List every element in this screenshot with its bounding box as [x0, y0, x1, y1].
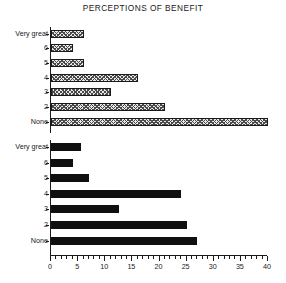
bar-lower-panel-5: [51, 174, 89, 182]
x-axis-minor-tick: [164, 256, 165, 259]
category-tick: [46, 209, 49, 210]
x-axis-minor-tick: [115, 256, 116, 259]
x-axis-minor-tick: [93, 256, 94, 259]
x-axis-minor-tick: [126, 256, 127, 259]
x-axis-tick-label: 15: [127, 262, 135, 271]
bar-row: [51, 205, 268, 213]
x-axis-major-tick: [104, 256, 105, 261]
x-axis-minor-tick: [224, 256, 225, 259]
x-axis-minor-tick: [153, 256, 154, 259]
category-tick: [46, 78, 49, 79]
category-tick: [46, 147, 49, 148]
category-tick: [46, 34, 49, 35]
x-axis-tick-label: 25: [182, 262, 190, 271]
x-axis-minor-tick: [72, 256, 73, 259]
x-axis-minor-tick: [169, 256, 170, 259]
x-axis-minor-tick: [251, 256, 252, 259]
x-axis-minor-tick: [175, 256, 176, 259]
category-tick: [46, 107, 49, 108]
x-axis-tick-label: 5: [75, 262, 79, 271]
x-axis-tick-label: 30: [209, 262, 217, 271]
category-tick: [46, 178, 49, 179]
category-tick: [46, 122, 49, 123]
x-axis-minor-tick: [148, 256, 149, 259]
upper-panel-category-axis: Very great65432None: [0, 27, 48, 133]
bar-row: [51, 59, 268, 67]
bar-row: [51, 221, 268, 229]
category-tick: [46, 241, 49, 242]
bar-row: [51, 143, 268, 151]
x-axis-tick-label: 20: [155, 262, 163, 271]
chart-title: PERCEPTIONS OF BENEFIT: [0, 3, 286, 13]
x-axis-major-tick: [213, 256, 214, 261]
bar-row: [51, 190, 268, 198]
bar-upper-panel-4: [51, 74, 138, 82]
bar-row: [51, 159, 268, 167]
bar-upper-panel-very-great: [51, 30, 84, 38]
lower-panel-plot-area: [50, 140, 272, 255]
x-axis-minor-tick: [88, 256, 89, 259]
x-axis-major-tick: [77, 256, 78, 261]
bar-row: [51, 174, 268, 182]
bar-upper-panel-6: [51, 44, 73, 52]
x-axis-major-tick: [159, 256, 160, 261]
bar-lower-panel-2: [51, 221, 187, 229]
bar-lower-panel-6: [51, 159, 73, 167]
x-axis-minor-tick: [180, 256, 181, 259]
bar-upper-panel-2: [51, 103, 165, 111]
x-axis-minor-tick: [191, 256, 192, 259]
x-axis-minor-tick: [142, 256, 143, 259]
x-axis-minor-tick: [99, 256, 100, 259]
x-axis-minor-tick: [234, 256, 235, 259]
x-axis-minor-tick: [66, 256, 67, 259]
x-axis-minor-tick: [83, 256, 84, 259]
x-axis-minor-tick: [121, 256, 122, 259]
category-tick: [46, 92, 49, 93]
x-axis-minor-tick: [55, 256, 56, 259]
x-axis-minor-tick: [137, 256, 138, 259]
bar-row: [51, 74, 268, 82]
bar-lower-panel-very-great: [51, 143, 81, 151]
x-axis-minor-tick: [110, 256, 111, 259]
category-tick: [46, 48, 49, 49]
chart-figure: PERCEPTIONS OF BENEFIT Very great65432No…: [0, 0, 286, 283]
category-tick: [46, 194, 49, 195]
x-axis-minor-tick: [229, 256, 230, 259]
category-label: Very great: [15, 30, 48, 38]
x-axis-major-tick: [240, 256, 241, 261]
category-tick: [46, 163, 49, 164]
lower-panel-category-axis: Very great65432None: [0, 140, 48, 255]
x-axis-tick-label: 40: [263, 262, 271, 271]
bar-row: [51, 30, 268, 38]
x-axis-tick-label: 0: [48, 262, 52, 271]
category-label: Very great: [15, 143, 48, 151]
bar-row: [51, 103, 268, 111]
x-axis-minor-tick: [61, 256, 62, 259]
bar-row: [51, 44, 268, 52]
bar-lower-panel-3: [51, 205, 119, 213]
x-axis-major-tick: [186, 256, 187, 261]
x-axis: 0510152025303540: [50, 255, 267, 281]
bar-lower-panel-4: [51, 190, 181, 198]
x-axis-minor-tick: [207, 256, 208, 259]
x-axis-minor-tick: [256, 256, 257, 259]
x-axis-minor-tick: [262, 256, 263, 259]
bar-lower-panel-none: [51, 237, 197, 245]
bar-row: [51, 88, 268, 96]
category-tick: [46, 63, 49, 64]
bar-upper-panel-5: [51, 59, 84, 67]
x-axis-major-tick: [267, 256, 268, 261]
bar-upper-panel-3: [51, 88, 111, 96]
bar-row: [51, 237, 268, 245]
x-axis-tick-label: 10: [100, 262, 108, 271]
x-axis-major-tick: [131, 256, 132, 261]
x-axis-minor-tick: [202, 256, 203, 259]
x-axis-minor-tick: [245, 256, 246, 259]
x-axis-minor-tick: [196, 256, 197, 259]
x-axis-minor-tick: [218, 256, 219, 259]
x-axis-major-tick: [50, 256, 51, 261]
bar-upper-panel-none: [51, 118, 268, 126]
upper-panel-plot-area: [50, 27, 272, 133]
bar-row: [51, 118, 268, 126]
x-axis-tick-label: 35: [236, 262, 244, 271]
